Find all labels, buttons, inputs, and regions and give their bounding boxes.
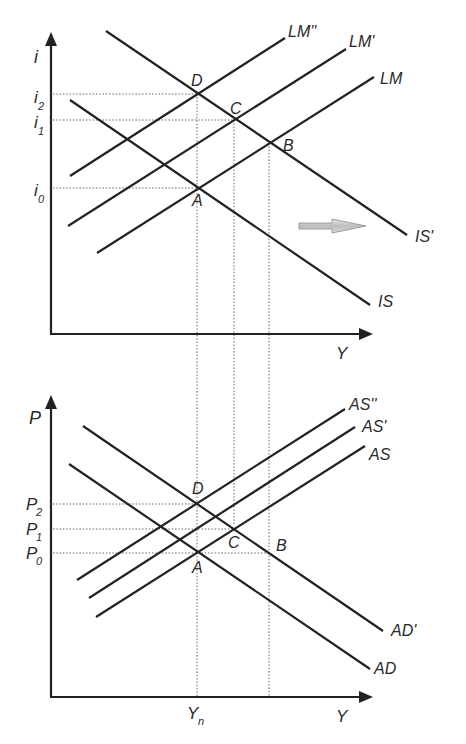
- is-curve: [70, 100, 370, 305]
- is-label: IS: [378, 293, 393, 310]
- point-b-top: B: [283, 137, 294, 154]
- y-axis-top-label: Y: [336, 344, 349, 363]
- as-prime-label: AS': [361, 418, 387, 435]
- lm-label: LM: [380, 70, 403, 87]
- y-axis-top-arrow-icon: [359, 328, 373, 340]
- as-prime-curve: [89, 427, 355, 598]
- svg-text:2: 2: [35, 506, 42, 518]
- is-lm-as-ad-diagram: i Y i 2 i 1 i 0 IS IS' LM LM' LM'' D C B…: [0, 0, 466, 744]
- lm-prime-curve: [68, 49, 346, 226]
- top-guides: [53, 94, 269, 697]
- i-axis-arrow-icon: [45, 32, 57, 46]
- p1-label: P 1: [26, 520, 42, 543]
- yn-label: Y n: [187, 704, 204, 727]
- point-c-bottom: C: [228, 534, 240, 551]
- p2-label: P 2: [26, 495, 42, 518]
- shift-right-arrow-icon: [299, 219, 366, 233]
- i-axis-label: i: [34, 47, 39, 67]
- as-double-prime-curve: [77, 409, 345, 580]
- y-axis-bottom-label: Y: [336, 707, 349, 726]
- point-a-bottom: A: [191, 559, 203, 576]
- i1-label: i 1: [34, 113, 44, 137]
- ad-prime-curve: [83, 426, 383, 631]
- p0-label: P 0: [26, 544, 43, 567]
- point-b-bottom: B: [276, 537, 287, 554]
- point-d-bottom: D: [192, 480, 204, 497]
- p-axis-label: P: [29, 408, 41, 428]
- svg-text:n: n: [198, 715, 204, 727]
- is-prime-label: IS': [415, 228, 434, 245]
- as-ad-panel: P Y Y n P 2 P 1 P 0 AD AD' AS AS' AS'' D…: [26, 395, 417, 727]
- lm-prime-label: LM': [349, 33, 375, 50]
- ad-curve: [69, 464, 370, 669]
- is-prime-curve: [106, 31, 407, 235]
- i2-label: i 2: [34, 88, 44, 112]
- ad-prime-label: AD': [390, 622, 417, 639]
- point-c-top: C: [230, 100, 242, 117]
- point-d-top: D: [191, 72, 203, 89]
- i0-label: i 0: [34, 181, 45, 205]
- svg-text:2: 2: [37, 100, 44, 112]
- p-axis-arrow-icon: [45, 395, 57, 409]
- as-label: AS: [368, 446, 391, 463]
- point-a-top: A: [191, 192, 203, 209]
- as-double-prime-label: AS'': [348, 396, 377, 413]
- y-axis-bottom-arrow-icon: [359, 691, 373, 703]
- lm-double-prime-label: LM'': [288, 23, 317, 40]
- ad-label: AD: [373, 660, 397, 677]
- svg-text:0: 0: [36, 555, 43, 567]
- svg-text:1: 1: [36, 531, 42, 543]
- svg-text:0: 0: [38, 193, 45, 205]
- svg-text:1: 1: [38, 125, 44, 137]
